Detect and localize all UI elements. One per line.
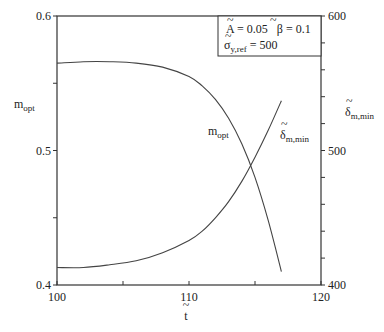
y-right-tick-label: 600 xyxy=(328,9,346,23)
chart: 1001101200.40.50.6400500600 A = 0.05 β =… xyxy=(0,0,384,332)
svg-text:~: ~ xyxy=(227,13,234,27)
y-right-tick-label: 500 xyxy=(328,144,346,158)
svg-text:~: ~ xyxy=(281,117,288,131)
y-axis-left-label: mopt xyxy=(14,97,35,113)
y-left-tick-label: 0.6 xyxy=(36,9,51,23)
x-tick-label: 120 xyxy=(312,290,330,304)
y-right-tick-label: 400 xyxy=(328,278,346,292)
y-left-tick-label: 0.4 xyxy=(36,278,51,292)
svg-text:~: ~ xyxy=(225,29,232,43)
curve-label-m-opt: mopt xyxy=(208,124,229,140)
series-m-opt-line xyxy=(57,62,281,272)
legend-box: A = 0.05 β = 0.1 σy,ref = 500 ~ ~ ~ xyxy=(218,13,321,56)
svg-text:~: ~ xyxy=(270,13,277,27)
svg-text:~: ~ xyxy=(183,298,190,312)
series-delta-line xyxy=(57,101,281,268)
y-left-tick-label: 0.5 xyxy=(36,144,51,158)
legend-a-value: A = 0.05 β = 0.1 xyxy=(226,22,311,36)
x-tick-label: 100 xyxy=(48,290,66,304)
svg-text:~: ~ xyxy=(346,94,353,108)
